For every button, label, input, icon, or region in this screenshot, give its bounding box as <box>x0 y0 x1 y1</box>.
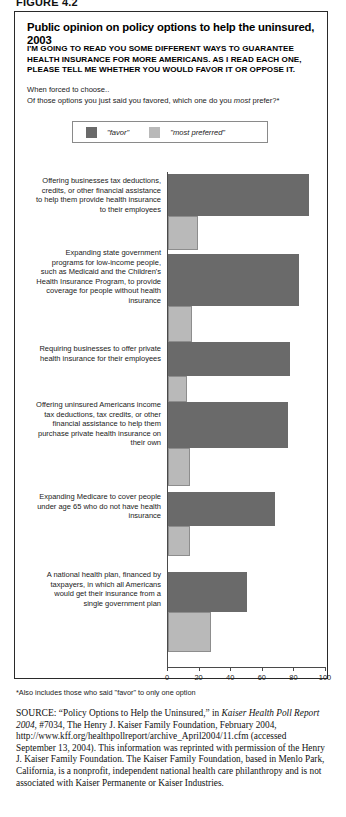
x-tick-mark <box>167 667 168 671</box>
x-tick-mark <box>230 667 231 671</box>
x-tick-mark <box>293 667 294 671</box>
bar-most-preferred <box>168 526 190 556</box>
bar-favor <box>168 174 309 216</box>
x-axis-line <box>167 667 325 668</box>
x-tick-label: 80 <box>289 673 297 682</box>
chart-legend: "favor" "most preferred" <box>72 121 268 143</box>
bar-most-preferred <box>168 448 190 486</box>
bar-favor <box>168 402 288 448</box>
legend-label-favor: "favor" <box>107 128 129 137</box>
legend-item-most-preferred: "most preferred" <box>149 127 225 138</box>
intro-emphasis: most <box>234 96 250 105</box>
x-tick-mark <box>199 667 200 671</box>
bar-favor <box>168 492 275 526</box>
chart-footnote: *Also includes those who said "favor" to… <box>16 688 316 697</box>
bar-most-preferred <box>168 216 198 250</box>
intro-text: When forced to choose.. Of those options… <box>27 84 319 106</box>
bar-most-preferred <box>168 306 192 342</box>
legend-label-most-preferred: "most preferred" <box>170 128 225 137</box>
bar-favor <box>168 254 299 306</box>
source-text-1: “Policy Options to Help the Uninsured,” … <box>57 708 222 718</box>
bar-most-preferred <box>168 612 211 652</box>
legend-item-favor: "favor" <box>86 127 129 138</box>
source-text-2: , #7034, The Henry J. Kaiser Family Foun… <box>16 720 325 788</box>
question-prompt: I'M GOING TO READ YOU SOME DIFFERENT WAY… <box>27 44 317 76</box>
category-label: Offering uninsured Americans income tax … <box>35 400 161 448</box>
legend-swatch-favor-icon <box>86 127 97 138</box>
category-label: Offering businesses tax deductions, cred… <box>35 176 161 214</box>
intro-line-2-a: Of those options you just said you favor… <box>27 96 234 105</box>
legend-swatch-most-preferred-icon <box>149 127 160 138</box>
intro-line-2-b: prefer?* <box>250 96 279 105</box>
figure-tag: FIGURE 4.2 <box>16 0 78 8</box>
bar-favor <box>168 572 247 612</box>
x-tick-label: 100 <box>319 673 331 682</box>
category-label: Expanding Medicare to cover people under… <box>35 492 161 521</box>
source-note: SOURCE: “Policy Options to Help the Unin… <box>16 707 326 789</box>
bar-favor <box>168 342 290 376</box>
plot-area: 020406080100 Offering businesses tax ded… <box>15 162 329 672</box>
x-tick-label: 20 <box>194 673 202 682</box>
intro-line-2: Of those options you just said you favor… <box>27 95 319 106</box>
bar-most-preferred <box>168 376 187 402</box>
category-label: A national health plan, financed by taxp… <box>35 570 161 608</box>
intro-line-1: When forced to choose.. <box>27 85 109 94</box>
x-tick-mark <box>262 667 263 671</box>
category-label: Requiring businesses to offer private he… <box>35 344 161 363</box>
source-prefix: SOURCE: <box>16 707 57 718</box>
x-tick-mark <box>325 667 326 671</box>
chart-panel: Public opinion on policy options to help… <box>14 11 328 679</box>
x-tick-label: 40 <box>226 673 234 682</box>
x-tick-label: 0 <box>165 673 169 682</box>
category-label: Expanding state government programs for … <box>35 248 161 306</box>
x-tick-label: 60 <box>258 673 266 682</box>
